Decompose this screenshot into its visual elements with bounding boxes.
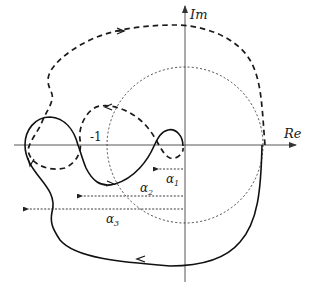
alpha-2-label: α2 [140,181,153,197]
real-axis-label: Re [283,126,302,141]
nyquist-diagram: Im Re -1 α1 α2 α3 [0,0,311,292]
distance-alpha-1: α1 [158,169,183,188]
alpha-3-label: α3 [106,212,119,228]
alpha-1-label: α1 [166,172,179,188]
outer-contour [28,25,265,169]
diagram-canvas: Im Re -1 α1 α2 α3 [0,0,311,292]
imag-axis-label: Im [189,7,207,22]
minus-one-label: -1 [90,130,102,144]
